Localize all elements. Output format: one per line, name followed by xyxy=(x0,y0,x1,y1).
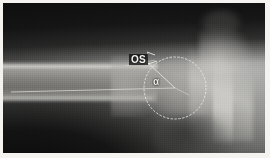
radiograph-plate: OS α xyxy=(3,3,265,153)
alpha-angle-label: α xyxy=(153,76,159,87)
film-vignette xyxy=(3,3,265,153)
radiograph-screenshot: OS α xyxy=(0,0,270,158)
offset-label: OS xyxy=(129,54,148,65)
